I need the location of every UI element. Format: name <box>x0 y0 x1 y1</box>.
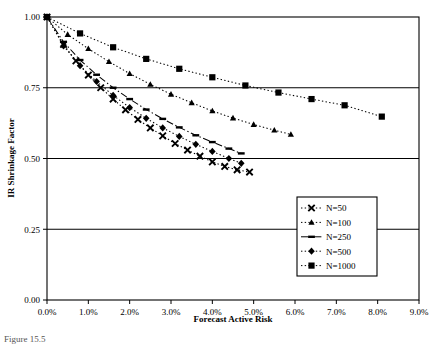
y-tick-label: 0.25 <box>24 225 40 235</box>
figure-container: 0.0%1.0%2.0%3.0%4.0%5.0%6.0%7.0%8.0%9.0%… <box>0 0 439 349</box>
y-tick-label: 0.50 <box>24 154 40 164</box>
y-tick-label: 1.00 <box>24 12 40 22</box>
x-tick-label: 8.0% <box>368 307 387 317</box>
x-tick-label: 6.0% <box>286 307 305 317</box>
y-tick-label: 0.75 <box>24 83 40 93</box>
y-axis-title: IR Shrinkage Factor <box>6 118 16 198</box>
x-tick-label: 2.0% <box>120 307 139 317</box>
legend-item-label: N=500 <box>326 247 352 257</box>
chart-legend: N=50N=100N=250N=500N=1000 <box>297 197 377 276</box>
chart-canvas: 0.0%1.0%2.0%3.0%4.0%5.0%6.0%7.0%8.0%9.0%… <box>0 0 439 325</box>
y-axis-ticks: 0.000.250.500.751.00 <box>24 12 47 305</box>
x-tick-label: 1.0% <box>79 307 98 317</box>
legend-item-label: N=50 <box>326 203 347 213</box>
series-layer <box>44 13 385 175</box>
legend-item-label: N=1000 <box>326 261 356 271</box>
x-tick-label: 9.0% <box>410 307 429 317</box>
x-tick-label: 7.0% <box>327 307 346 317</box>
figure-caption: Figure 15.5 <box>4 334 46 344</box>
x-tick-label: 0.0% <box>38 307 57 317</box>
x-tick-label: 3.0% <box>162 307 181 317</box>
y-tick-label: 0.00 <box>24 295 40 305</box>
legend-item-label: N=100 <box>326 218 352 228</box>
x-axis-title: Forecast Active Risk <box>194 314 273 324</box>
legend-item-label: N=250 <box>326 232 352 242</box>
